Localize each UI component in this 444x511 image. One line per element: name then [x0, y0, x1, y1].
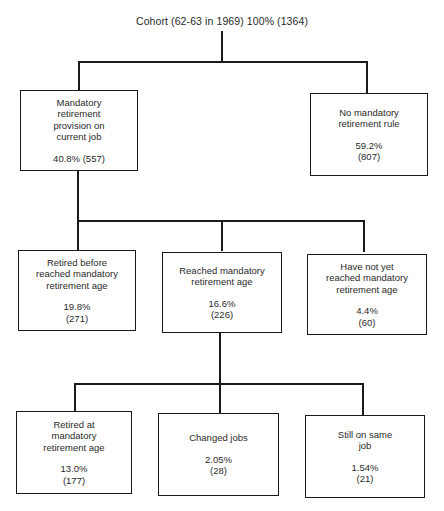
root-node-cohort: Cohort (62-63 in 1969) 100% (1364): [0, 15, 444, 27]
connector-to-retired-at-age: [74, 383, 76, 412]
node-stats: 19.8% (271): [64, 301, 91, 324]
node-stats: 16.6% (226): [209, 298, 236, 321]
node-mandatory-retirement-provision: Mandatory retirement provision on curren…: [20, 90, 138, 171]
node-stats: 2.05% (28): [205, 454, 232, 477]
node-not-yet-reached-mandatory-age: Have not yet reached mandatory retiremen…: [307, 254, 427, 335]
connector-to-still-same-job: [362, 384, 364, 415]
connector-reached-age-down: [219, 333, 221, 385]
connector-to-retired-before: [77, 220, 79, 251]
node-no-mandatory-retirement-rule: No mandatory retirement rule 59.2% (807): [310, 93, 428, 176]
connector-to-not-yet-reached: [363, 222, 365, 252]
node-stats: 59.2% (807): [356, 140, 383, 163]
node-stats: 1.54% (21): [352, 462, 379, 485]
node-label: Retired before reached mandatory retirem…: [36, 257, 118, 292]
connector-level1-bar: [78, 61, 368, 63]
node-label: Retired at mandatory retirement age: [43, 419, 104, 454]
connector-to-no-mandatory: [366, 61, 368, 94]
node-retired-before-mandatory-age: Retired before reached mandatory retirem…: [18, 250, 136, 331]
node-stats: 4.4% (60): [356, 305, 378, 328]
node-still-on-same-job: Still on same job 1.54% (21): [305, 415, 425, 498]
node-label: Mandatory retirement provision on curren…: [53, 97, 104, 143]
connector-root-down: [221, 31, 223, 63]
node-label: No mandatory retirement rule: [338, 107, 399, 130]
node-stats: 13.0% (177): [61, 463, 88, 486]
node-retired-at-mandatory-age: Retired at mandatory retirement age 13.0…: [16, 411, 132, 494]
node-label: Have not yet reached mandatory retiremen…: [326, 261, 408, 296]
node-label: Reached mandatory retirement age: [179, 265, 265, 288]
node-stats: 40.8% (557): [53, 153, 105, 165]
connector-to-mandatory: [78, 61, 80, 91]
connector-to-changed-jobs: [219, 383, 221, 414]
connector-mandatory-down: [77, 171, 79, 222]
node-reached-mandatory-age: Reached mandatory retirement age 16.6% (…: [162, 252, 282, 333]
node-label: Changed jobs: [189, 432, 248, 444]
node-changed-jobs: Changed jobs 2.05% (28): [158, 413, 279, 496]
connector-to-reached-age: [221, 221, 223, 251]
node-label: Still on same job: [338, 429, 392, 452]
